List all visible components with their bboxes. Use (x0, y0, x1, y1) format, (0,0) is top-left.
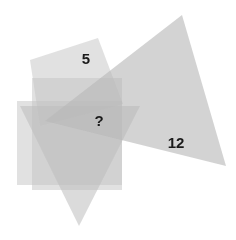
puzzle-canvas: 5?12 (0, 0, 236, 240)
geometry-diagram: 5?12 (0, 0, 236, 240)
label-five: 5 (82, 50, 90, 67)
label-twelve: 12 (168, 134, 185, 151)
label-unknown: ? (94, 112, 103, 129)
